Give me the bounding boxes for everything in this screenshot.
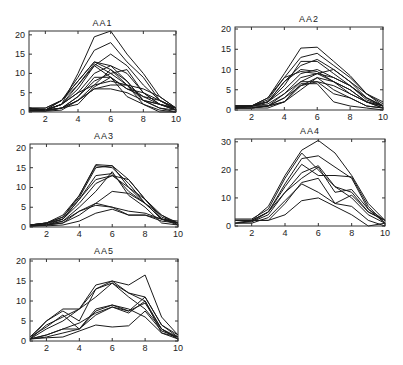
y-tick-label: 20 — [16, 256, 26, 266]
y-tick-label: 0 — [20, 107, 25, 117]
y-tick-label: 10 — [16, 296, 26, 306]
x-tick-label: 6 — [315, 112, 320, 122]
y-tick-label: 5 — [226, 85, 231, 95]
y-tick-label: 5 — [21, 202, 26, 212]
subplot-aa1: AA124681005101520 — [15, 18, 181, 124]
x-tick-label: 10 — [378, 112, 388, 122]
y-tick-label: 10 — [221, 65, 231, 75]
axes-frame — [235, 139, 385, 226]
series-line-s1 — [30, 165, 178, 225]
x-tick-label: 2 — [249, 228, 254, 238]
x-tick-label: 6 — [110, 229, 115, 239]
subplot-aa3: AA324681005101520 — [16, 131, 183, 239]
axes-frame — [30, 259, 178, 341]
subplot-title: AA4 — [300, 126, 320, 136]
y-tick-label: 5 — [21, 316, 26, 326]
y-tick-label: 0 — [21, 222, 26, 232]
x-tick-label: 4 — [282, 112, 287, 122]
y-tick-label: 0 — [226, 221, 231, 231]
y-tick-label: 10 — [221, 193, 231, 203]
x-tick-label: 10 — [171, 114, 181, 124]
y-tick-label: 20 — [221, 24, 231, 34]
x-tick-label: 2 — [249, 112, 254, 122]
x-tick-label: 4 — [77, 343, 82, 353]
subplot-title: AA5 — [94, 246, 114, 256]
x-tick-label: 2 — [43, 114, 48, 124]
x-tick-label: 8 — [143, 343, 148, 353]
y-tick-label: 5 — [20, 88, 25, 98]
x-tick-label: 10 — [380, 228, 390, 238]
x-tick-label: 8 — [349, 228, 354, 238]
x-tick-label: 2 — [44, 343, 49, 353]
subplot-aa5: AA524681005101520 — [16, 246, 183, 353]
y-tick-label: 20 — [15, 30, 25, 40]
x-tick-label: 6 — [110, 343, 115, 353]
x-tick-label: 8 — [141, 114, 146, 124]
y-tick-label: 0 — [21, 336, 26, 346]
y-tick-label: 20 — [221, 165, 231, 175]
subplot-aa2: AA224681005101520 — [221, 14, 388, 122]
y-tick-label: 20 — [16, 143, 26, 153]
x-tick-label: 6 — [316, 228, 321, 238]
x-tick-label: 10 — [173, 229, 183, 239]
axes-frame — [30, 144, 178, 227]
x-tick-label: 4 — [75, 114, 80, 124]
y-tick-label: 15 — [16, 276, 26, 286]
subplot-aa4: AA42468100102030 — [221, 126, 390, 238]
x-tick-label: 2 — [44, 229, 49, 239]
y-tick-label: 15 — [15, 49, 25, 59]
series-line-s6 — [30, 176, 178, 226]
series-line-s4 — [235, 61, 383, 108]
x-tick-label: 6 — [108, 114, 113, 124]
subplot-title: AA2 — [299, 14, 319, 24]
y-tick-label: 0 — [226, 105, 231, 115]
x-tick-label: 4 — [77, 229, 82, 239]
y-tick-label: 10 — [15, 68, 25, 78]
subplot-title: AA1 — [92, 18, 112, 28]
x-tick-label: 4 — [282, 228, 287, 238]
chart-figure: AA124681005101520AA224681005101520AA3246… — [0, 0, 403, 365]
y-tick-label: 10 — [16, 182, 26, 192]
x-tick-label: 8 — [143, 229, 148, 239]
series-line-s9 — [29, 70, 176, 111]
x-tick-label: 10 — [173, 343, 183, 353]
y-tick-label: 15 — [16, 163, 26, 173]
x-tick-label: 8 — [348, 112, 353, 122]
y-tick-label: 15 — [221, 44, 231, 54]
subplot-title: AA3 — [94, 131, 114, 141]
y-tick-label: 30 — [221, 137, 231, 147]
